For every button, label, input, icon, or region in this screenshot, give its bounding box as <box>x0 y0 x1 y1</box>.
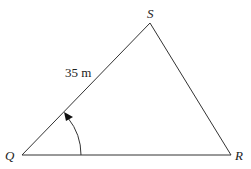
angle-arc <box>68 118 81 155</box>
arrowhead-icon <box>64 112 73 121</box>
side-qs <box>22 23 150 155</box>
side-sr <box>150 23 231 155</box>
triangle-diagram: S Q R 35 m <box>0 0 251 169</box>
vertex-label-r: R <box>234 148 243 163</box>
vertex-label-q: Q <box>5 148 15 163</box>
vertex-label-s: S <box>147 6 154 21</box>
side-length-label: 35 m <box>65 65 91 80</box>
